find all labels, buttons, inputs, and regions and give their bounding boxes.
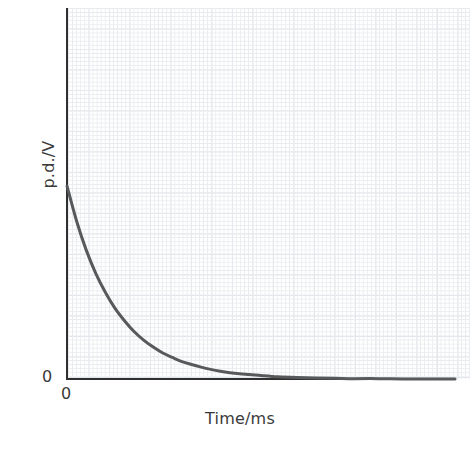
y-axis-origin-label: 0	[42, 369, 52, 385]
y-axis-label: p.d./V	[39, 115, 58, 215]
x-axis-label: Time/ms	[160, 409, 320, 428]
x-axis-origin-label: 0	[61, 386, 71, 402]
pd-decay-curve	[67, 186, 455, 379]
graph-figure: p.d./V Time/ms 0 0	[0, 0, 470, 449]
decay-curve-svg	[0, 0, 470, 449]
